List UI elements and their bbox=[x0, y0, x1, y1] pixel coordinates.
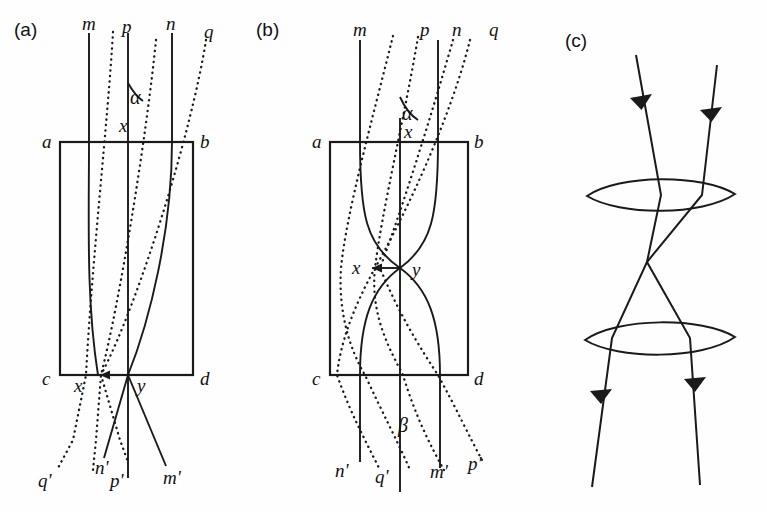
panel-b-top-label-p: p bbox=[418, 19, 430, 40]
panel-b-solid-ray-n-out bbox=[360, 268, 400, 462]
panel-a-top-label-q: q bbox=[204, 21, 214, 42]
panel-b-point-x-mid: x bbox=[351, 257, 361, 278]
panel-b-top-label-m: m bbox=[353, 19, 367, 40]
panel-c-ray-1 bbox=[592, 55, 661, 487]
panel-b-corner-a: a bbox=[312, 131, 322, 152]
figure-container: (a) α bbox=[0, 0, 767, 512]
panel-a-exit-solid-n bbox=[104, 375, 128, 458]
panel-b-bottom-label-m: m' bbox=[430, 461, 449, 482]
panel-b-bottom-label-p: p' bbox=[466, 453, 483, 474]
panel-b-corner-c: c bbox=[312, 368, 321, 389]
panel-a-dotted-ray-2 bbox=[93, 40, 156, 470]
panel-a-point-x-lower: x bbox=[73, 375, 83, 396]
panel-c-ray-2 bbox=[647, 65, 717, 485]
panel-b-dotted-ray-right bbox=[380, 40, 482, 460]
panel-a-corner-d: d bbox=[200, 368, 210, 389]
panel-b-rect bbox=[330, 142, 468, 375]
panel-a-label: (a) bbox=[14, 19, 37, 40]
panel-a-bottom-label-p: p' bbox=[108, 470, 125, 491]
panel-a-angle-label: α bbox=[130, 86, 141, 108]
panel-b-bottom-label-q: q' bbox=[375, 466, 390, 487]
panel-a-corner-c: c bbox=[42, 368, 51, 389]
panel-c-lens-lower bbox=[585, 322, 735, 354]
panel-a-bottom-label-n: n' bbox=[95, 457, 110, 478]
panel-b-point-x-upper: x bbox=[403, 121, 413, 142]
panel-b-corner-d: d bbox=[474, 368, 484, 389]
panel-c-arrowhead-top-right bbox=[700, 107, 722, 122]
panel-a-top-label-p: p bbox=[120, 16, 132, 37]
panel-c: (c) bbox=[565, 30, 735, 487]
panel-a-point-y: y bbox=[135, 375, 146, 396]
panel-a-corner-b: b bbox=[200, 131, 210, 152]
panel-c-arrowhead-top-left bbox=[630, 94, 652, 110]
panel-b-label: (b) bbox=[256, 19, 279, 40]
panel-b-bottom-label-n: n' bbox=[335, 460, 350, 481]
diagram-svg: (a) α bbox=[0, 0, 767, 512]
panel-b-shift-arrowhead bbox=[372, 264, 382, 273]
panel-b-top-label-n: n bbox=[452, 19, 462, 40]
panel-a-rect bbox=[60, 142, 193, 375]
panel-c-arrowhead-bottom-right bbox=[684, 377, 706, 392]
panel-b-top-label-q: q bbox=[489, 19, 499, 40]
panel-a-solid-ray-m bbox=[89, 33, 98, 375]
panel-b-solid-ray-n-in bbox=[400, 40, 438, 268]
panel-a-bottom-label-m: m' bbox=[163, 467, 182, 488]
panel-a-bottom-label-q: q' bbox=[38, 470, 53, 491]
panel-a-dotted-ray-3 bbox=[101, 40, 206, 462]
panel-a: (a) α bbox=[14, 13, 214, 491]
panel-a-top-label-m: m bbox=[82, 13, 96, 34]
panel-c-label: (c) bbox=[565, 30, 587, 51]
panel-b-point-y: y bbox=[410, 259, 421, 280]
panel-a-corner-a: a bbox=[42, 131, 52, 152]
panel-b-angle-label-beta: β bbox=[397, 414, 408, 437]
panel-a-exit-solid-m bbox=[128, 375, 166, 466]
panel-a-top-label-n: n bbox=[166, 13, 176, 34]
panel-c-arrowhead-bottom-left bbox=[590, 389, 612, 404]
panel-a-point-x-upper: x bbox=[118, 115, 128, 136]
panel-b-corner-b: b bbox=[474, 131, 484, 152]
panel-a-dotted-ray-1 bbox=[58, 32, 113, 468]
panel-b: (b) α β bbox=[256, 19, 499, 492]
